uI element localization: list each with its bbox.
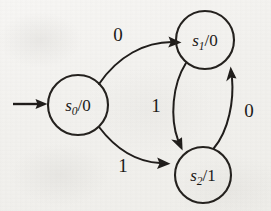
transition-s0-to-s1-label: 0 — [113, 24, 123, 45]
state-s1-label: s1/0 — [192, 31, 218, 52]
initial-state-arrow — [13, 99, 48, 109]
state-s1[interactable]: s1/0 — [176, 11, 234, 69]
transition-s2-to-s1-label: 0 — [244, 100, 254, 121]
transition-s0-to-s2[interactable]: 1 — [99, 127, 171, 176]
state-s0[interactable]: s0/0 — [48, 75, 108, 135]
transition-s1-to-s2[interactable]: 1 — [151, 63, 186, 151]
transition-s0-to-s2-path — [99, 127, 160, 163]
transition-s0-to-s1-path — [99, 42, 172, 84]
transition-s2-to-s1-path — [214, 78, 232, 148]
transition-s1-to-s2-label: 1 — [151, 95, 161, 116]
state-diagram-canvas: 0 1 1 0 s0/0 — [0, 0, 271, 211]
fsm-diagram-svg: 0 1 1 0 s0/0 — [0, 0, 271, 211]
state-s2[interactable]: s2/1 — [175, 147, 231, 203]
state-s0-output: 0 — [82, 96, 91, 115]
state-s1-output: 0 — [209, 31, 218, 50]
state-s0-label: s0/0 — [65, 96, 91, 117]
transition-s0-to-s2-label: 1 — [118, 155, 128, 176]
transition-s1-to-s2-path — [173, 63, 186, 140]
transition-s2-to-s1[interactable]: 0 — [214, 67, 254, 149]
transition-s0-to-s1[interactable]: 0 — [99, 24, 182, 84]
state-s2-label: s2/1 — [190, 166, 216, 187]
state-s2-output: 1 — [207, 166, 216, 185]
